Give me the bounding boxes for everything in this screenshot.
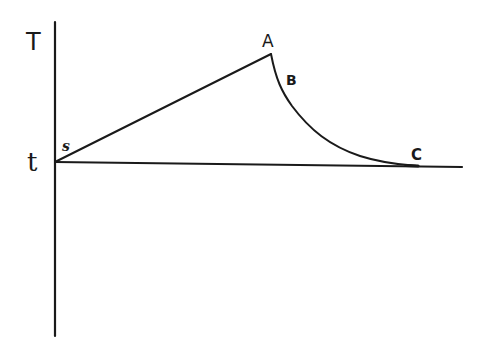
- diagram-canvas: [0, 0, 487, 357]
- horizontal-axis-label: t: [27, 149, 37, 175]
- rising-line-s-to-a: [55, 54, 271, 162]
- decay-curve-a-to-c: [271, 54, 418, 166]
- point-c-marker: [406, 166, 418, 167]
- point-c-label: C: [411, 148, 422, 163]
- vertical-axis-label: T: [26, 30, 41, 54]
- point-b-label: B: [286, 73, 297, 87]
- point-s-label: s: [62, 139, 70, 153]
- point-a-label: A: [262, 33, 274, 50]
